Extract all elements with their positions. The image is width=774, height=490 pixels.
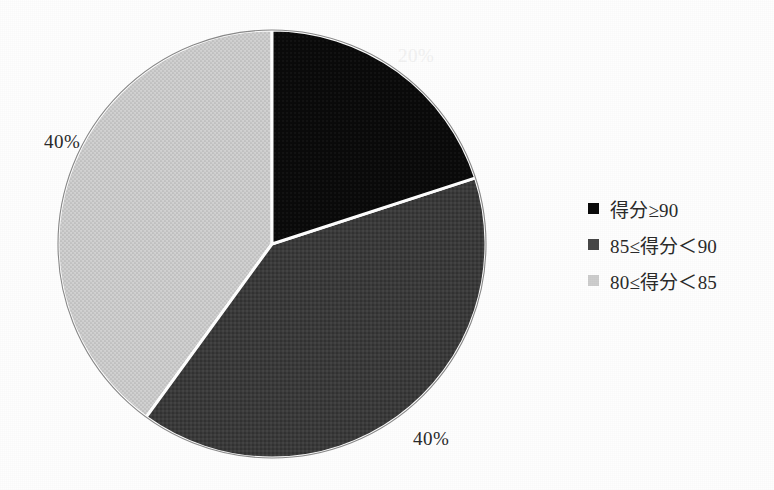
pie-chart-figure: 20% 40% 40% 得分≥90 85≤得分＜90 80≤得分＜85: [0, 0, 774, 490]
legend-label-85-90: 85≤得分＜90: [610, 231, 717, 258]
legend-swatch-icon-80-85: [588, 275, 599, 286]
legend-swatch-icon-85-90: [588, 239, 599, 250]
pie-chart-plot-area: 20% 40% 40%: [0, 0, 560, 490]
pie-label-80-85: 40%: [44, 131, 80, 153]
legend-label-ge-90: 得分≥90: [610, 195, 678, 222]
legend-swatch-icon-ge-90: [588, 203, 599, 214]
legend-item-80-85[interactable]: 80≤得分＜85: [588, 262, 768, 298]
chart-legend: 得分≥90 85≤得分＜90 80≤得分＜85: [588, 190, 768, 298]
pie-label-85-90: 40%: [413, 428, 449, 450]
legend-item-85-90[interactable]: 85≤得分＜90: [588, 226, 768, 262]
legend-label-80-85: 80≤得分＜85: [610, 267, 717, 294]
legend-item-ge-90[interactable]: 得分≥90: [588, 190, 768, 226]
pie-label-ge-90: 20%: [398, 45, 434, 67]
pie-chart-svg: [0, 0, 560, 490]
